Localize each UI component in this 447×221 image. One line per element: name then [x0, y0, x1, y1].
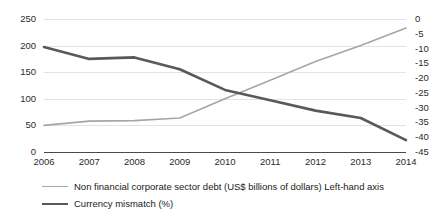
legend-swatch-debt [42, 186, 68, 187]
chart-container: 250200150100500 0-5-10-15-20-25-30-35-40… [0, 0, 447, 221]
series-line-debt [44, 28, 406, 125]
legend-item-debt: Non financial corporate sector debt (US$… [42, 181, 384, 192]
legend-swatch-mismatch [42, 203, 68, 205]
legend-label-debt: Non financial corporate sector debt (US$… [74, 181, 384, 192]
legend-item-mismatch: Currency mismatch (%) [42, 198, 173, 209]
series-line-mismatch [44, 47, 406, 140]
legend-label-mismatch: Currency mismatch (%) [74, 198, 173, 209]
